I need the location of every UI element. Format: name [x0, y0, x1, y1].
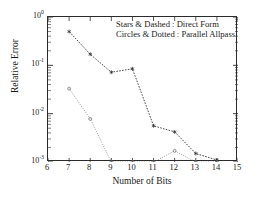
x-tick-label: 6 [39, 163, 55, 172]
legend: Stars & Dashed : Direct Form Circles & D… [116, 19, 235, 39]
marker-circle [173, 149, 176, 152]
x-tick-label: 15 [229, 163, 245, 172]
y-tick-label: 100 [22, 12, 44, 20]
x-tick-label: 10 [123, 163, 139, 172]
series-line-1 [69, 89, 217, 162]
x-tick-label: 14 [208, 163, 224, 172]
x-axis-title: Number of Bits [47, 176, 237, 186]
legend-entry-direct-form: Stars & Dashed : Direct Form [116, 19, 235, 29]
y-axis-title: Relative Error [10, 39, 20, 93]
x-tick-label: 8 [81, 163, 97, 172]
x-tick-label: 7 [60, 163, 76, 172]
x-tick-label: 13 [187, 163, 203, 172]
x-tick-label: 9 [102, 163, 118, 172]
chart-container: Relative Error 10010-110-210-3 678910111… [0, 0, 260, 197]
marker-circle [89, 117, 92, 120]
x-tick-label: 11 [145, 163, 161, 172]
x-tick-label: 12 [166, 163, 182, 172]
legend-entry-parallel-allpass: Circles & Dotted : Parallel Allpass [116, 29, 235, 39]
y-tick-label: 10-1 [22, 60, 44, 68]
series-line-0 [69, 32, 217, 160]
data-series-group [67, 30, 218, 162]
y-tick-label: 10-2 [22, 109, 44, 117]
